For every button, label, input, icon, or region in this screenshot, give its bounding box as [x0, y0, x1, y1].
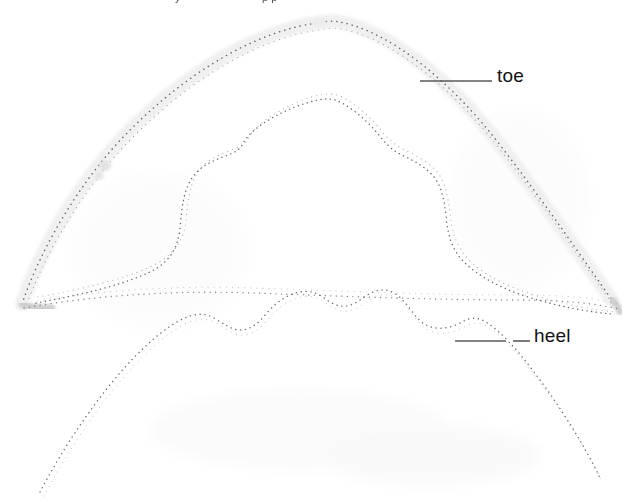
edge-nubs	[94, 18, 326, 180]
outer-arc-right-tip	[612, 300, 620, 312]
toe-label: toe	[497, 66, 524, 85]
outer-arc-left-tip	[22, 304, 52, 308]
scan-page: y p p	[0, 0, 643, 502]
pattern-drawing	[0, 0, 643, 502]
heel-label: heel	[534, 326, 571, 345]
